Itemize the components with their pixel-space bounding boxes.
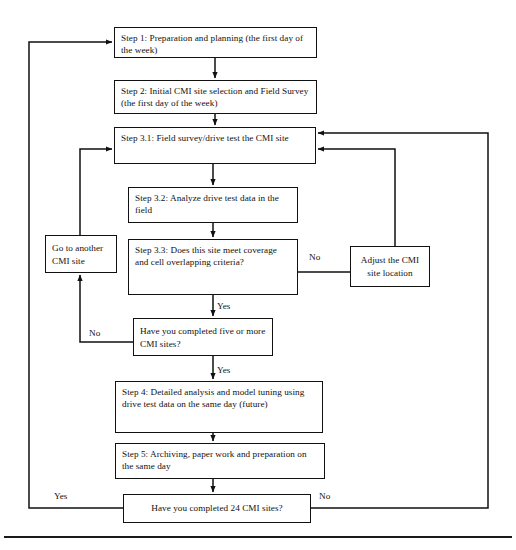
connector-adjust-to-step31	[318, 149, 395, 246]
edge-label-yes-step33: Yes	[217, 302, 230, 311]
go-to-another-cmi-site-label: Go to another CMI site	[52, 242, 110, 267]
completed-five-sites-decision-box[interactable]: Have you completed five or more CMI site…	[133, 318, 273, 356]
adjust-cmi-site-location-label: Adjust the CMI site location	[356, 254, 424, 279]
page-root: Step 1: Preparation and planning (the fi…	[0, 0, 516, 550]
step-2-label: Step 2: Initial CMI site selection and F…	[121, 85, 310, 110]
step-4-box[interactable]: Step 4: Detailed analysis and model tuni…	[115, 381, 323, 433]
flowchart-diagram: Step 1: Preparation and planning (the fi…	[0, 0, 516, 550]
step-1-label: Step 1: Preparation and planning (the fi…	[121, 32, 310, 57]
completed-24-sites-decision-box[interactable]: Have you completed 24 CMI sites?	[123, 494, 311, 523]
edge-label-yes-final: Yes	[54, 492, 67, 501]
step-3-2-box[interactable]: Step 3.2: Analyze drive test data in the…	[128, 187, 298, 223]
adjust-cmi-site-location-box[interactable]: Adjust the CMI site location	[350, 246, 430, 287]
connector-goto-to-step31	[80, 149, 112, 235]
edge-label-no-five-sites: No	[89, 329, 100, 338]
step-5-box[interactable]: Step 5: Archiving, paper work and prepar…	[115, 443, 325, 479]
connector-final-yes-to-step1	[29, 42, 123, 508]
connector-five-no-to-goto	[80, 275, 133, 342]
step-3-3-label: Step 3.3: Does this site meet coverage a…	[135, 244, 291, 269]
step-4-label: Step 4: Detailed analysis and model tuni…	[122, 386, 316, 411]
step-3-1-box[interactable]: Step 3.1: Field survey/drive test the CM…	[114, 127, 316, 164]
edge-label-yes-five-sites: Yes	[217, 366, 230, 375]
step-3-3-decision-box[interactable]: Step 3.3: Does this site meet coverage a…	[128, 239, 298, 295]
step-2-box[interactable]: Step 2: Initial CMI site selection and F…	[114, 80, 317, 114]
step-3-1-label: Step 3.1: Field survey/drive test the CM…	[121, 132, 309, 144]
completed-five-sites-label: Have you completed five or more CMI site…	[140, 325, 266, 350]
step-1-box[interactable]: Step 1: Preparation and planning (the fi…	[114, 27, 317, 58]
connector-final-no-to-step31	[311, 133, 488, 508]
completed-24-sites-label: Have you completed 24 CMI sites?	[151, 502, 282, 514]
edge-label-no-final: No	[319, 492, 330, 501]
edge-label-no-step33: No	[309, 253, 320, 262]
go-to-another-cmi-site-box[interactable]: Go to another CMI site	[45, 235, 117, 273]
step-3-2-label: Step 3.2: Analyze drive test data in the…	[135, 192, 291, 217]
step-5-label: Step 5: Archiving, paper work and prepar…	[122, 448, 318, 473]
caption-divider-rule	[4, 536, 512, 538]
